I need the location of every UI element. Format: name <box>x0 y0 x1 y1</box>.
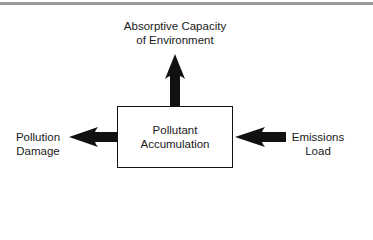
pollutant-accumulation-node: Pollutant Accumulation <box>117 106 233 168</box>
label-line: Pollutant <box>118 123 232 137</box>
arrow-in-icon <box>235 127 286 147</box>
node-label: Pollutant Accumulation <box>118 123 232 151</box>
arrow-up-icon <box>165 54 185 107</box>
arrow-left-icon <box>69 127 118 147</box>
label-line: Accumulation <box>118 137 232 151</box>
